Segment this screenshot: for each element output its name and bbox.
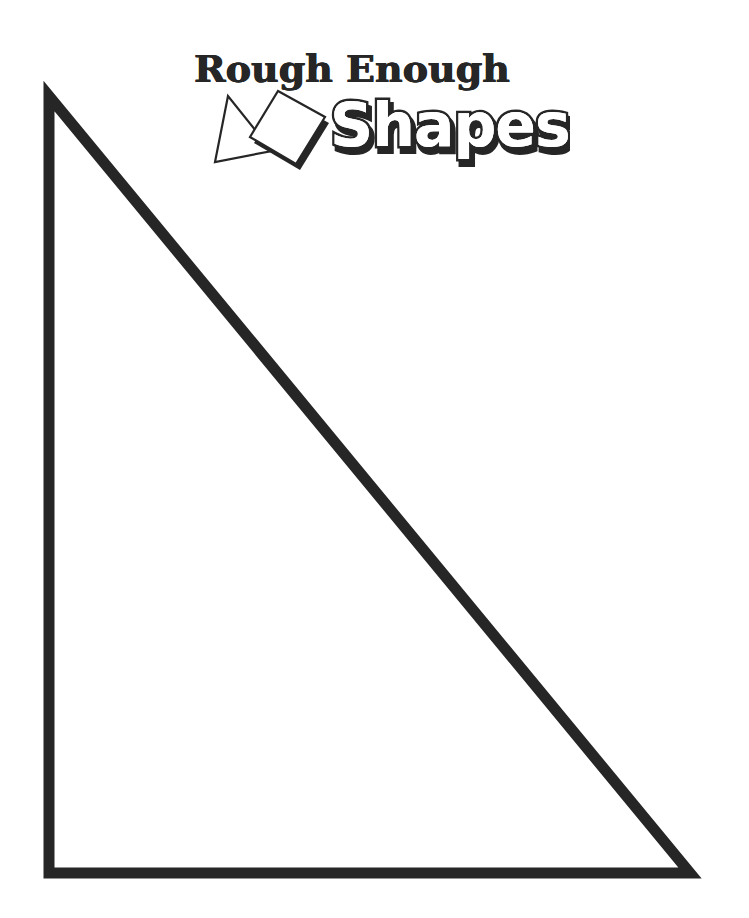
worksheet-page: Shapes Shapes Shapes Rough Enough — [0, 0, 749, 918]
right-triangle-outline — [0, 0, 749, 918]
triangle-shape — [49, 96, 690, 873]
